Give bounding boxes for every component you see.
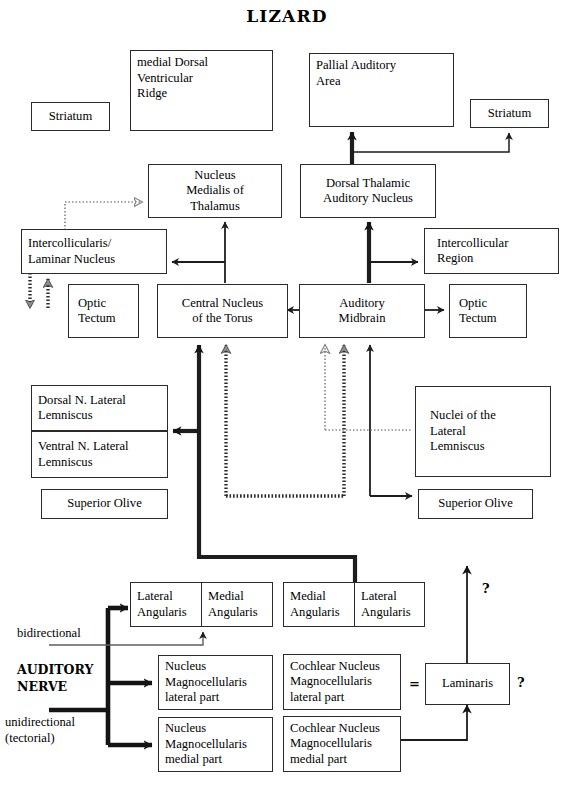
box-striatum-right[interactable]: Striatum xyxy=(470,99,549,128)
box-dorsal-n-lateral-lemniscus[interactable]: Dorsal N. Lateral Lemniscus xyxy=(31,385,168,431)
box-intercollicularis-laminar-nucleus[interactable]: Intercollicularis/ Laminar Nucleus xyxy=(21,229,167,274)
box-auditory-midbrain[interactable]: Auditory Midbrain xyxy=(299,284,425,338)
wire-dotted-intercollicularis-to-thalamus xyxy=(65,202,142,230)
box-superior-olive-right[interactable]: Superior Olive xyxy=(418,489,533,519)
box-intercollicular-region[interactable]: Intercollicular Region xyxy=(424,228,559,274)
label-equals-sign: = xyxy=(409,676,420,691)
box-cochlear-nucleus-magnocellularis-lateral[interactable]: Cochlear Nucleus Magnocellularis lateral… xyxy=(283,654,401,710)
box-medial-dorsal-ventricular-ridge[interactable]: medial Dorsal Ventricular Ridge xyxy=(130,50,273,131)
wire-trunk-base xyxy=(197,557,355,582)
box-lateral-angularis-right[interactable]: Lateral Angularis xyxy=(354,582,425,627)
box-nucleus-medialis-thalamus[interactable]: Nucleus Medialis of Thalamus xyxy=(148,164,282,218)
box-nucleus-magnocellularis-lateral[interactable]: Nucleus Magnocellularis lateral part xyxy=(158,655,273,710)
box-cochlear-nucleus-magnocellularis-medial[interactable]: Cochlear Nucleus Magnocellularis medial … xyxy=(283,716,401,772)
box-optic-tectum-right[interactable]: Optic Tectum xyxy=(449,284,527,338)
wire-dtan-to-striatum xyxy=(352,133,509,152)
box-pallial-auditory-area[interactable]: Pallial Auditory Area xyxy=(309,53,454,127)
page-title: LIZARD xyxy=(0,6,574,26)
wire-cochlear-medial-to-laminaris xyxy=(400,705,467,740)
box-nuclei-lateral-lemniscus[interactable]: Nuclei of the Lateral Lemniscus xyxy=(415,386,551,477)
label-unidirectional-tectorial: unidirectional (tectorial) xyxy=(5,715,75,746)
box-nucleus-magnocellularis-medial[interactable]: Nucleus Magnocellularis medial part xyxy=(158,717,273,772)
label-auditory-nerve: AUDITORY NERVE xyxy=(17,661,93,695)
box-medial-angularis-right[interactable]: Medial Angularis xyxy=(283,582,355,627)
box-lateral-angularis-left[interactable]: Lateral Angularis xyxy=(130,582,202,627)
box-superior-olive-left[interactable]: Superior Olive xyxy=(41,489,168,519)
label-question-right: ? xyxy=(517,675,525,690)
label-bidirectional: bidirectional xyxy=(17,626,81,642)
box-dorsal-thalamic-auditory-nucleus[interactable]: Dorsal Thalamic Auditory Nucleus xyxy=(300,164,436,218)
box-striatum-left[interactable]: Striatum xyxy=(31,102,110,131)
box-optic-tectum-left[interactable]: Optic Tectum xyxy=(68,284,139,338)
box-medial-angularis-left[interactable]: Medial Angularis xyxy=(201,582,273,627)
label-question-top: ? xyxy=(482,581,490,596)
box-central-nucleus-torus[interactable]: Central Nucleus of the Torus xyxy=(157,284,288,338)
diagram-canvas: LIZARD xyxy=(0,0,574,795)
box-laminaris[interactable]: Laminaris xyxy=(425,663,510,705)
box-ventral-n-lateral-lemniscus[interactable]: Ventral N. Lateral Lemniscus xyxy=(31,431,168,478)
